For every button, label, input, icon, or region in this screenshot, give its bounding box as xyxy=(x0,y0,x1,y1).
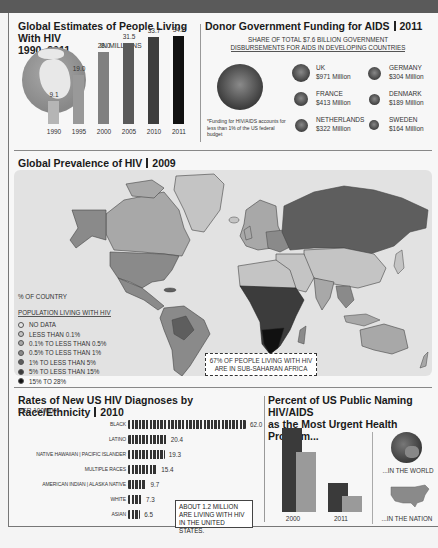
donor-amount: $322 Million xyxy=(316,125,351,133)
legend-label: LESS THAN 0.1% xyxy=(29,331,80,338)
race-row: MULTIPLE RACES15.4 xyxy=(18,465,268,474)
funding-bubble xyxy=(368,67,381,80)
chart-title: Percent of US Public Naming HIV/AIDS xyxy=(268,394,436,418)
africa-callout: 67% OF PEOPLE LIVING WITH HIV ARE IN SUB… xyxy=(205,353,317,376)
race-label: AMERICAN INDIAN | ALASKA NATIVE xyxy=(42,481,126,487)
rate-value: 7.3 xyxy=(146,496,155,503)
donor-amount: $164 Million xyxy=(389,125,424,133)
world-label: ...IN THE WORLD xyxy=(380,467,436,474)
donor-name: GERMANY xyxy=(389,64,422,72)
divider xyxy=(264,396,265,522)
donor-name: NETHERLANDS xyxy=(316,116,364,124)
year-label: 2000 xyxy=(278,515,308,522)
legend-label: 0.1% TO LESS THAN 0.5% xyxy=(29,340,106,347)
legend-swatch-icon xyxy=(18,369,24,375)
donor-sweden: SWEDEN$164 Million xyxy=(365,116,435,140)
race-label: NATIVE HAWAIIAN | PACIFIC ISLANDER xyxy=(36,451,126,457)
legend-title: % OF COUNTRY xyxy=(18,293,168,301)
race-row: AMERICAN INDIAN | ALASKA NATIVE9.7 xyxy=(18,480,268,489)
donor-name: DENMARK xyxy=(389,90,422,98)
chart-title: Donor Government Funding for AIDS2011 xyxy=(205,20,435,32)
race-row: BLACK62.0 xyxy=(18,420,268,429)
year-label: 2011 xyxy=(167,128,191,135)
legend-label: 15% TO 28% xyxy=(29,378,66,385)
bar-value: 33.7 xyxy=(144,27,164,34)
year-label: 2011 xyxy=(326,515,356,522)
legend-item: 1% TO LESS THAN 5% xyxy=(18,358,168,367)
donor-funding-chart: Donor Government Funding for AIDS2011 SH… xyxy=(205,20,435,148)
unit-label: PER 100 000 xyxy=(18,407,57,414)
year-label: 1990 xyxy=(42,128,66,135)
chart-title: Rates of New US HIV Diagnoses by Race/Et… xyxy=(18,394,266,418)
divider xyxy=(14,387,432,388)
legend-item: 0.5% TO LESS THAN 1% xyxy=(18,348,168,357)
map-legend: % OF COUNTRY POPULATION LIVING WITH HIV … xyxy=(18,293,168,386)
divider xyxy=(14,150,432,151)
people-icons xyxy=(128,510,140,519)
global-estimates-chart: Global Estimates of People Living With H… xyxy=(18,20,198,148)
race-label: WHITE xyxy=(110,496,126,502)
rate-value: 9.7 xyxy=(150,481,159,488)
legend-label: 5% TO LESS THAN 15% xyxy=(29,368,99,375)
race-row: NATIVE HAWAIIAN | PACIFIC ISLANDER19.3 xyxy=(18,450,268,459)
legend-swatch-icon xyxy=(18,378,24,384)
donor-amount: $304 Million xyxy=(389,73,424,81)
legend-label: NO DATA xyxy=(29,321,56,328)
race-label: BLACK xyxy=(110,421,126,427)
donor-germany: GERMANY$304 Million xyxy=(365,64,435,88)
bar-value: 31.5 xyxy=(119,33,139,40)
donor-name: SWEDEN xyxy=(389,116,418,124)
rate-value: 19.3 xyxy=(169,451,181,458)
bar: 31.52005 xyxy=(123,43,134,124)
legend-label: 1% TO LESS THAN 5% xyxy=(29,359,96,366)
donor-amount: $189 Million xyxy=(389,99,424,107)
race-label: MULTIPLE RACES xyxy=(85,466,126,472)
legend-label: 0.5% TO LESS THAN 1% xyxy=(29,349,101,356)
funding-bubble xyxy=(295,119,308,132)
race-label: ASIAN xyxy=(111,511,126,517)
bar: 19.01995 xyxy=(73,75,84,124)
funding-bubble xyxy=(294,92,308,106)
funding-bubble xyxy=(369,94,380,105)
chart-subtitle: SHARE OF TOTAL $7.6 BILLION GOVERNMENTDI… xyxy=(205,36,431,52)
bar-value: 9.1 xyxy=(44,91,64,98)
legend-title-2: POPULATION LIVING WITH HIV xyxy=(18,309,111,318)
legend-swatch-icon xyxy=(18,340,24,346)
legend-swatch-icon xyxy=(18,322,24,328)
bar-area xyxy=(282,428,368,512)
divider xyxy=(372,432,373,524)
people-icons xyxy=(128,495,142,504)
legend-swatch-icon xyxy=(18,359,24,365)
us-map-icon xyxy=(389,483,431,509)
legend-item: 0.1% TO LESS THAN 0.5% xyxy=(18,339,168,348)
bar-value: 34.2 xyxy=(169,26,189,33)
funding-bubble xyxy=(369,120,379,130)
bar-value: 28.0 xyxy=(94,42,114,49)
legend-item: LESS THAN 0.1% xyxy=(18,329,168,338)
people-icons xyxy=(128,450,165,459)
bar-value: 19.0 xyxy=(69,65,89,72)
nation-bar xyxy=(296,452,316,512)
race-label: LATINO xyxy=(109,436,126,442)
rate-value: 20.4 xyxy=(171,436,183,443)
year-label: 2005 xyxy=(117,128,141,135)
people-icons xyxy=(128,480,146,489)
donor-france: FRANCE$413 Million xyxy=(292,90,362,114)
legend-item: NO DATA xyxy=(18,320,168,329)
donor-amount: $413 Million xyxy=(316,99,351,107)
bar: 34.22011 xyxy=(173,36,184,124)
rate-value: 6.5 xyxy=(144,511,153,518)
rate-value: 15.4 xyxy=(161,466,173,473)
year-label: 2010 xyxy=(142,128,166,135)
bar: 9.11990 xyxy=(48,101,59,124)
legend-swatch-icon xyxy=(18,350,24,356)
top-band xyxy=(0,0,438,13)
legend-swatch-icon xyxy=(18,331,24,337)
divider xyxy=(200,24,201,142)
people-icons xyxy=(128,435,167,444)
nation-label: ...IN THE NATION xyxy=(378,515,436,522)
bar: 33.72010 xyxy=(148,37,159,124)
nation-bar xyxy=(342,496,362,512)
year-label: 1995 xyxy=(67,128,91,135)
bar: 28.02000 xyxy=(98,52,109,124)
